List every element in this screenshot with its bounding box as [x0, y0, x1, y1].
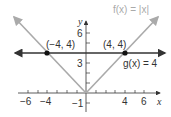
- intersection-point-left: [44, 50, 49, 55]
- graph: f(x) = |x| g(x) = 4 (−4, 4) (4, 4) y x −…: [0, 0, 171, 117]
- point-left-label: (−4, 4): [46, 39, 75, 50]
- f-left-branch: [14, 17, 86, 93]
- y-axis-label: y: [77, 16, 83, 27]
- y-tick-label-3: 3: [77, 58, 83, 69]
- g-label: g(x) = 4: [123, 58, 158, 69]
- y-tick-label-6: 6: [77, 28, 83, 39]
- x-tick-label-m4: −4: [40, 96, 52, 107]
- f-right-branch: [86, 17, 158, 93]
- x-tick-label-6: 6: [141, 96, 147, 107]
- f-label: f(x) = |x|: [113, 4, 149, 15]
- x-tick-label-m6: −6: [20, 96, 32, 107]
- intersection-point-right: [122, 50, 127, 55]
- x-tick-label-4: 4: [122, 96, 128, 107]
- x-axis-label: x: [156, 96, 162, 107]
- point-right-label: (4, 4): [103, 39, 126, 50]
- y-tick-label-m1: −1: [72, 98, 84, 109]
